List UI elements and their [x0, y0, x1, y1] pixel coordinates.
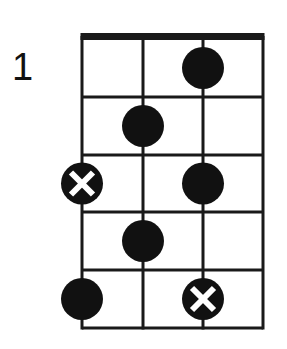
note-dot	[122, 220, 164, 262]
note-dot	[61, 278, 103, 320]
note-dot	[122, 105, 164, 147]
fretboard-diagram	[0, 0, 287, 349]
nut	[81, 33, 265, 40]
note-dot	[182, 163, 224, 205]
note-dot	[182, 47, 224, 89]
